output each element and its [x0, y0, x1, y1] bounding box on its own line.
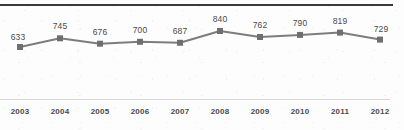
data-point-marker [257, 34, 263, 40]
category-tick-label: 2004 [51, 107, 70, 116]
data-point-value-label: 676 [93, 27, 107, 37]
data-point-value-label: 819 [333, 16, 347, 26]
data-point-value-label: 633 [11, 32, 25, 42]
category-tick-label: 2006 [131, 107, 150, 116]
category-tick-label: 2009 [251, 107, 270, 116]
category-tick-label: 2003 [11, 107, 30, 116]
data-point-value-label: 745 [53, 21, 67, 31]
series-line [20, 31, 380, 47]
category-tick-label: 2011 [331, 107, 349, 116]
data-point-value-label: 840 [213, 14, 227, 24]
data-point-marker [217, 28, 223, 34]
data-point-marker [137, 39, 143, 45]
data-point-marker [377, 37, 383, 43]
data-point-marker [297, 32, 303, 38]
data-point-value-label: 790 [293, 18, 307, 28]
category-tick-label: 2010 [291, 107, 310, 116]
data-point-marker [337, 30, 343, 36]
line-chart: 633745676700687840762790819729 200320042… [0, 0, 404, 130]
category-tick-label: 2005 [91, 107, 110, 116]
data-point-value-label: 687 [173, 26, 187, 36]
category-tick-label: 2007 [171, 107, 190, 116]
data-point-value-label: 700 [133, 25, 147, 35]
data-point-value-label: 729 [374, 24, 388, 34]
data-point-marker [177, 40, 183, 46]
category-tick-label: 2008 [211, 107, 230, 116]
category-tick-label: 2012 [371, 107, 390, 116]
data-point-marker [97, 41, 103, 47]
data-point-marker [57, 35, 63, 41]
data-point-value-label: 762 [253, 20, 267, 30]
data-point-marker [17, 44, 23, 50]
